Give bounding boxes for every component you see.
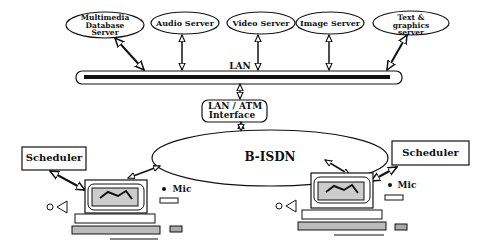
right-mic-label: Mic <box>395 181 419 190</box>
image-server-label: Image Server <box>297 19 363 27</box>
diagram: Multimedia Database Server Audio Server … <box>0 0 490 247</box>
lan-label: LAN <box>225 62 255 71</box>
text-graphics-server-label: Text & graphics server <box>380 14 442 37</box>
right-scheduler-label: Scheduler <box>392 148 469 158</box>
diagram-lines <box>0 0 490 247</box>
audio-server-label: Audio Server <box>152 19 218 27</box>
multimedia-server-label: Multimedia Database Server <box>72 14 138 37</box>
interface-label-line2: Interface <box>204 111 260 120</box>
bisdn-label: B-ISDN <box>230 151 310 163</box>
left-mic-label: Mic <box>170 185 194 194</box>
left-scheduler-label: Scheduler <box>22 153 86 163</box>
left-workstation-icon <box>47 180 182 239</box>
video-server-label: Video Server <box>228 19 294 27</box>
